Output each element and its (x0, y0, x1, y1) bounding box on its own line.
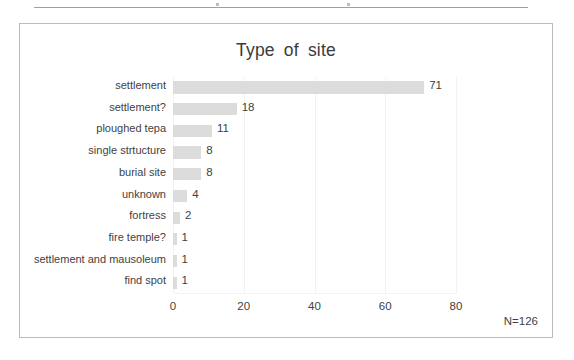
x-tick-label: 40 (308, 300, 321, 312)
bar[interactable] (173, 190, 187, 202)
category-label: fortress (129, 209, 166, 221)
bar-value-label: 1 (182, 231, 188, 243)
bar-row: burial site8 (173, 164, 456, 186)
category-label: settlement and mausoleum (34, 253, 166, 265)
bar-row: find spot1 (173, 272, 456, 294)
bar[interactable] (173, 277, 177, 289)
bar[interactable] (173, 212, 180, 224)
bar[interactable] (173, 168, 201, 180)
category-label: fire temple? (109, 231, 166, 243)
bar-value-label: 8 (206, 166, 212, 178)
category-label: settlement? (109, 101, 166, 113)
bar[interactable] (173, 103, 237, 115)
page-scan-artifact (34, 0, 528, 6)
bar-row: settlement?18 (173, 99, 456, 121)
category-label: ploughed tepa (96, 122, 166, 134)
bar-value-label: 1 (182, 274, 188, 286)
x-tick-label: 20 (237, 300, 250, 312)
bar-value-label: 1 (182, 253, 188, 265)
x-tick-label: 0 (170, 300, 176, 312)
bar-value-label: 2 (185, 209, 191, 221)
bar-value-label: 8 (206, 144, 212, 156)
chart-title: Type of site (20, 40, 552, 61)
x-tick-label: 60 (379, 300, 392, 312)
category-label: burial site (119, 166, 166, 178)
gridline (456, 77, 457, 294)
bar-value-label: 18 (242, 101, 255, 113)
bar-value-label: 4 (192, 188, 198, 200)
bar[interactable] (173, 81, 424, 93)
category-label: unknown (122, 188, 166, 200)
x-tick-label: 80 (450, 300, 463, 312)
sample-size-annotation: N=126 (504, 315, 538, 327)
bar[interactable] (173, 255, 177, 267)
bar-row: ploughed tepa11 (173, 120, 456, 142)
bar[interactable] (173, 125, 212, 137)
bar-value-label: 11 (217, 122, 229, 134)
chart-container: Type of site settlement71settlement?18pl… (19, 23, 553, 338)
bar-row: fortress2 (173, 207, 456, 229)
bar-value-label: 71 (429, 79, 442, 91)
bar-row: fire temple?1 (173, 229, 456, 251)
category-label: single strtucture (88, 144, 166, 156)
bar[interactable] (173, 233, 177, 245)
bar-row: settlement71 (173, 77, 456, 99)
bar[interactable] (173, 146, 201, 158)
plot-area: settlement71settlement?18ploughed tepa11… (173, 77, 456, 294)
bar-row: single strtucture8 (173, 142, 456, 164)
category-label: settlement (115, 79, 166, 91)
bar-row: unknown4 (173, 186, 456, 208)
category-label: find spot (124, 274, 166, 286)
page-divider-rule (34, 7, 528, 8)
bar-row: settlement and mausoleum1 (173, 251, 456, 273)
